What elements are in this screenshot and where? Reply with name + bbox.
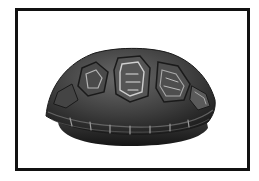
turtle-shell-photo <box>0 0 259 181</box>
